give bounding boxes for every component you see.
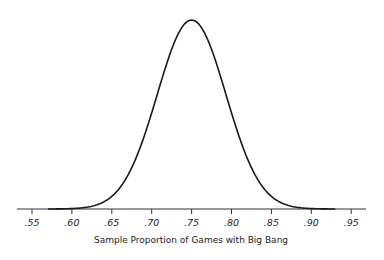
x-tick-label: .75 xyxy=(184,217,199,228)
x-tick-label: .55 xyxy=(24,217,39,228)
x-axis-ticks xyxy=(32,209,351,214)
x-tick-label: .95 xyxy=(344,217,359,228)
x-tick-label: .60 xyxy=(64,217,79,228)
x-tick-label: .85 xyxy=(264,217,279,228)
normal-curve xyxy=(48,20,335,209)
x-axis-tick-labels: .55.60.65.70.75.80.85.90.95 xyxy=(24,217,358,228)
normal-distribution-chart: .55.60.65.70.75.80.85.90.95 Sample Propo… xyxy=(0,0,384,260)
x-tick-label: .90 xyxy=(304,217,319,228)
x-axis-title: Sample Proportion of Games with Big Bang xyxy=(94,235,288,245)
x-tick-label: .65 xyxy=(104,217,119,228)
x-tick-label: .70 xyxy=(144,217,159,228)
x-tick-label: .80 xyxy=(224,217,239,228)
